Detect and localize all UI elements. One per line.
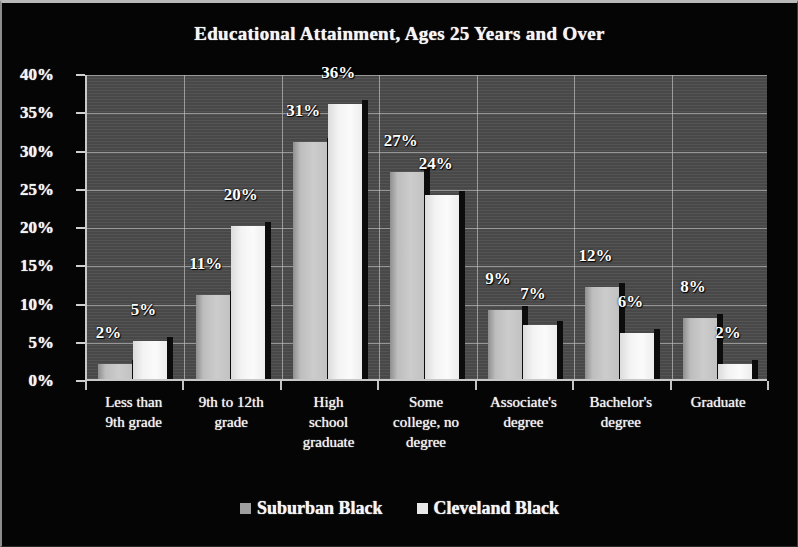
bar-value-label: 5% — [131, 300, 157, 320]
legend-swatch-icon — [240, 503, 251, 514]
bar-group: 8%2% — [672, 75, 769, 379]
y-axis-tick-label: 35% — [0, 103, 54, 123]
bar-cleveland-black[interactable] — [133, 341, 167, 379]
bar-cleveland-black[interactable] — [718, 364, 752, 379]
x-axis-tick-mark — [475, 381, 477, 390]
y-axis-tick-label: 0% — [0, 371, 54, 391]
bar-group: 2%5% — [87, 75, 184, 379]
bar-shadow — [362, 100, 368, 379]
x-axis-tick-mark — [670, 381, 672, 390]
bar-value-label: 20% — [224, 185, 258, 205]
bar-group: 9%7% — [477, 75, 574, 379]
legend-label: Suburban Black — [257, 498, 383, 519]
x-axis-tick-mark — [572, 381, 574, 390]
x-axis-tick-mark — [377, 381, 379, 390]
y-axis-tick-label: 15% — [0, 256, 54, 276]
y-axis-tick-mark — [76, 74, 85, 76]
plot-area: 2%5%11%20%31%36%27%24%9%7%12%6%8%2% — [85, 75, 767, 381]
bar-value-label: 31% — [286, 101, 320, 121]
bar-group: 11%20% — [184, 75, 281, 379]
y-axis-tick-mark — [76, 304, 85, 306]
bar-value-label: 2% — [96, 323, 122, 343]
bar-shadow — [265, 222, 271, 379]
chart-title: Educational Attainment, Ages 25 Years an… — [2, 23, 797, 45]
y-axis-tick-mark — [76, 342, 85, 344]
x-axis-tick-mark — [182, 381, 184, 390]
bar-shadow — [557, 321, 563, 379]
y-axis-tick-label: 25% — [0, 180, 54, 200]
y-axis-tick-mark — [76, 189, 85, 191]
bar-value-label: 9% — [485, 269, 511, 289]
legend-item-cleveland-black[interactable]: Cleveland Black — [417, 498, 560, 519]
bar-suburban-black[interactable] — [585, 287, 619, 379]
y-axis-tick-mark — [76, 151, 85, 153]
bar-value-label: 36% — [321, 63, 355, 83]
bar-suburban-black[interactable] — [683, 318, 717, 379]
x-axis-category-label: Graduate — [661, 393, 776, 413]
y-axis-tick-mark — [76, 112, 85, 114]
x-axis-tick-mark — [280, 381, 282, 390]
y-axis-tick-label: 40% — [0, 65, 54, 85]
x-axis-tick-mark — [767, 381, 769, 390]
bar-value-label: 24% — [419, 154, 453, 174]
legend-label: Cleveland Black — [434, 498, 560, 519]
bar-value-label: 11% — [189, 254, 222, 274]
bar-group: 31%36% — [282, 75, 379, 379]
y-axis-tick-mark — [76, 380, 85, 382]
y-axis-tick-label: 5% — [0, 333, 54, 353]
chart-legend: Suburban BlackCleveland Black — [2, 498, 797, 519]
bar-cleveland-black[interactable] — [620, 333, 654, 379]
bar-shadow — [459, 191, 465, 379]
bar-suburban-black[interactable] — [488, 310, 522, 379]
bar-group: 12%6% — [574, 75, 671, 379]
y-axis-tick-label: 20% — [0, 218, 54, 238]
bar-value-label: 8% — [680, 277, 706, 297]
bar-value-label: 2% — [715, 323, 741, 343]
chart-container: Educational Attainment, Ages 25 Years an… — [0, 0, 798, 547]
bar-shadow — [752, 360, 758, 379]
bar-cleveland-black[interactable] — [523, 325, 557, 379]
y-axis-tick-label: 30% — [0, 142, 54, 162]
bar-value-label: 7% — [520, 284, 546, 304]
y-axis-tick-mark — [76, 265, 85, 267]
bar-value-label: 27% — [384, 131, 418, 151]
bar-suburban-black[interactable] — [196, 295, 230, 379]
bar-group: 27%24% — [379, 75, 476, 379]
bar-cleveland-black[interactable] — [231, 226, 265, 379]
bar-cleveland-black[interactable] — [328, 104, 362, 379]
y-axis-tick-mark — [76, 227, 85, 229]
bar-value-label: 12% — [579, 246, 613, 266]
bar-shadow — [167, 337, 173, 379]
bar-suburban-black[interactable] — [390, 172, 424, 379]
y-axis-tick-label: 10% — [0, 295, 54, 315]
bar-cleveland-black[interactable] — [425, 195, 459, 379]
bar-shadow — [654, 329, 660, 379]
x-axis-tick-mark — [85, 381, 87, 390]
legend-item-suburban-black[interactable]: Suburban Black — [240, 498, 383, 519]
bar-value-label: 6% — [618, 292, 644, 312]
bar-suburban-black[interactable] — [293, 142, 327, 379]
bar-suburban-black[interactable] — [98, 364, 132, 379]
legend-swatch-icon — [417, 503, 428, 514]
